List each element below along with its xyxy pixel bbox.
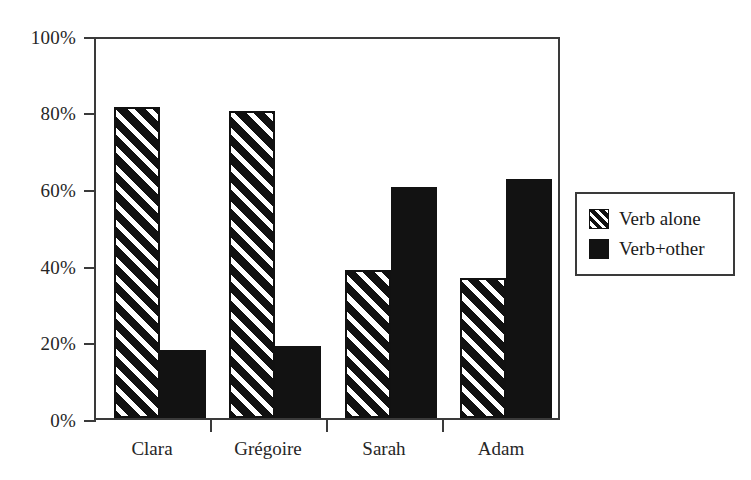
y-axis-label-80: 80%: [0, 104, 76, 123]
solid-black-swatch-icon: [589, 239, 609, 259]
legend: Verb alone Verb+other: [575, 192, 735, 276]
bar-adam-verb-alone: [460, 278, 506, 418]
hatched-swatch-icon: [589, 209, 609, 229]
y-axis-label-20: 20%: [0, 334, 76, 353]
x-axis-label-gregoire: Grégoire: [210, 438, 326, 460]
plot-area: [94, 37, 560, 420]
x-axis-tick-2: [326, 420, 328, 432]
y-axis-label-100: 100%: [0, 28, 76, 47]
y-axis-tick-0: [84, 420, 96, 422]
bar-gregoire-verb-other: [275, 346, 321, 418]
x-axis-label-sarah: Sarah: [326, 438, 442, 460]
x-axis-label-clara: Clara: [94, 438, 210, 460]
y-axis-label-60: 60%: [0, 181, 76, 200]
bar-chart: 100% 80% 60% 40% 20% 0% Clara Grégoire S…: [0, 0, 751, 480]
legend-label-verb-alone: Verb alone: [619, 209, 701, 229]
legend-item-verb-other: Verb+other: [589, 234, 721, 264]
x-axis-tick-3: [442, 420, 444, 432]
x-axis-tick-1: [210, 420, 212, 432]
bar-sarah-verb-other: [391, 187, 437, 418]
bar-clara-verb-alone: [114, 107, 160, 418]
bar-sarah-verb-alone: [345, 270, 391, 418]
y-axis-label-40: 40%: [0, 258, 76, 277]
bar-adam-verb-other: [506, 179, 552, 418]
x-axis-label-adam: Adam: [442, 438, 560, 460]
bar-clara-verb-other: [160, 350, 206, 418]
legend-item-verb-alone: Verb alone: [589, 204, 721, 234]
legend-label-verb-other: Verb+other: [619, 239, 705, 259]
bar-gregoire-verb-alone: [229, 111, 275, 418]
y-axis-label-0: 0%: [0, 411, 76, 430]
